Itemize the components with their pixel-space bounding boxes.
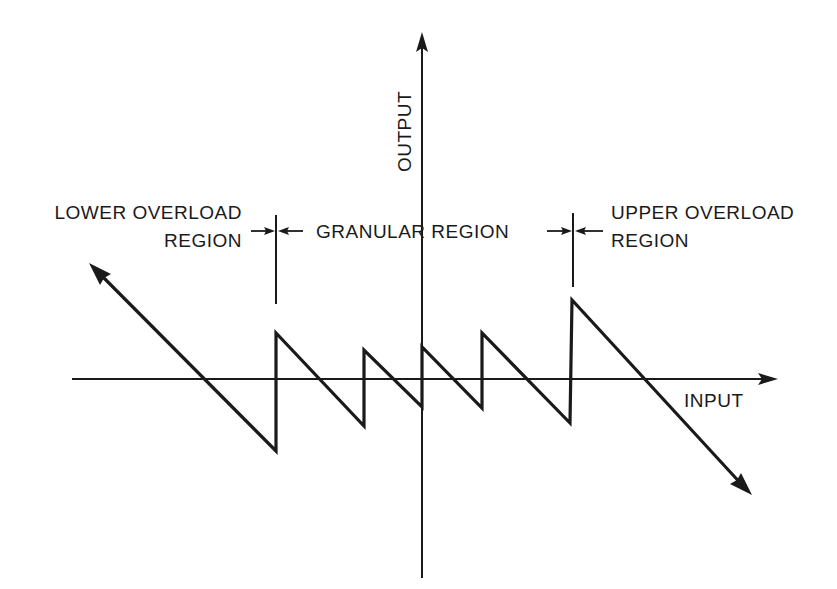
lower-overload-region-label: LOWER OVERLOAD REGION	[20, 202, 242, 252]
region-boundary-right	[547, 213, 603, 287]
input-axis-label: INPUT	[684, 390, 744, 412]
granular-region-label: GRANULAR REGION	[316, 221, 509, 243]
lower-overload-line1: LOWER OVERLOAD	[20, 202, 242, 224]
upper-overload-line2: REGION	[611, 230, 794, 252]
region-boundary-left	[251, 215, 303, 304]
upper-overload-line1: UPPER OVERLOAD	[611, 202, 794, 224]
output-axis-label: OUTPUT	[394, 91, 416, 172]
quantizer-characteristic-diagram: LOWER OVERLOAD REGION GRANULAR REGION UP…	[0, 0, 837, 589]
lower-overload-line2: REGION	[20, 230, 242, 252]
output-axis	[416, 32, 428, 578]
input-axis	[72, 373, 778, 385]
diagram-canvas	[0, 0, 837, 589]
upper-overload-region-label: UPPER OVERLOAD REGION	[611, 202, 794, 252]
